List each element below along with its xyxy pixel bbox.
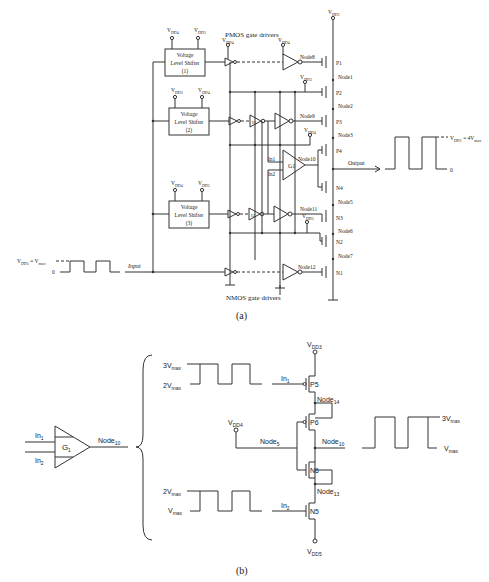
svg-text:VDD4: VDD4 <box>171 180 183 188</box>
caption-a: (a) <box>236 310 247 322</box>
svg-text:Node6: Node6 <box>338 228 353 234</box>
svg-text:Node10: Node10 <box>298 156 316 162</box>
svg-text:Vmax: Vmax <box>444 445 459 454</box>
svg-text:Level Shifter: Level Shifter <box>175 119 204 125</box>
svg-text:Voltage: Voltage <box>177 52 194 58</box>
svg-text:In1: In1 <box>281 375 290 384</box>
svg-text:Level Shifter: Level Shifter <box>171 60 200 66</box>
svg-text:In2: In2 <box>281 502 290 511</box>
svg-text:VDD3: VDD3 <box>300 74 312 82</box>
in1-waveform: 3Vmax 2Vmax In1 <box>163 362 303 391</box>
svg-text:Node9: Node9 <box>300 113 315 119</box>
svg-text:In1: In1 <box>35 432 44 441</box>
svg-text:In2: In2 <box>35 457 44 466</box>
svg-text:P1: P1 <box>336 60 342 66</box>
svg-text:Voltage: Voltage <box>181 111 198 117</box>
svg-text:N4: N4 <box>336 185 343 191</box>
part-a-schematic: PMOS gate drivers NMOS gate drivers (a) … <box>17 9 481 322</box>
in2-waveform: 2Vmax Vmax In2 <box>163 488 303 516</box>
output-waveform-b: 3Vmax Vmax <box>362 415 461 454</box>
svg-text:Node13: Node13 <box>317 488 340 497</box>
svg-text:VDD3: VDD3 <box>171 87 183 95</box>
svg-text:VDD5 = Vmax: VDD5 = Vmax <box>17 258 45 266</box>
svg-text:Node5: Node5 <box>260 438 280 447</box>
level-shifter-2: Voltage Level Shifter (2) VDD3 VDD4 <box>169 87 210 135</box>
svg-text:0: 0 <box>450 167 453 173</box>
svg-text:VDD1: VDD1 <box>328 9 340 17</box>
part-b-schematic: G 1 In1 In2 Node10 3Vmax 2Vmax In1 2Vmax… <box>25 341 461 577</box>
svg-text:I1: I1 <box>252 120 257 125</box>
transistor-stack-a: VDD1 P1 P2 P3 P4 N4 N3 N2 N1 Node1 <box>318 9 380 300</box>
svg-text:(2): (2) <box>186 127 193 134</box>
svg-text:P4: P4 <box>336 148 342 154</box>
svg-text:VDD3: VDD3 <box>307 341 322 350</box>
svg-text:VDD4: VDD4 <box>198 87 210 95</box>
svg-text:G1: G1 <box>288 163 295 169</box>
svg-text:Voltage: Voltage <box>181 204 198 210</box>
svg-text:N5: N5 <box>310 508 319 515</box>
svg-text:N1: N1 <box>336 270 343 276</box>
svg-text:Output: Output <box>348 160 365 166</box>
svg-text:0: 0 <box>52 269 55 275</box>
svg-text:Node10: Node10 <box>322 438 345 447</box>
input-waveform: VDD5 = Vmax 0 <box>17 258 120 275</box>
svg-text:Node12: Node12 <box>298 264 316 270</box>
svg-text:Node11: Node11 <box>300 206 317 212</box>
svg-text:In2: In2 <box>268 171 276 177</box>
svg-text:2Vmax: 2Vmax <box>163 488 182 497</box>
level-shifter-1: Voltage Level Shifter (1) VDD4 VDD3 <box>165 27 206 76</box>
svg-text:N2: N2 <box>336 239 343 245</box>
svg-text:Node2: Node2 <box>338 103 353 109</box>
svg-text:VDD5: VDD5 <box>307 548 322 557</box>
caption-b: (b) <box>236 565 248 577</box>
svg-text:VDD4: VDD4 <box>167 27 179 35</box>
svg-text:Node3: Node3 <box>338 132 353 138</box>
svg-text:Vmax: Vmax <box>168 507 183 516</box>
svg-text:Node10: Node10 <box>98 437 121 446</box>
nmos-header: NMOS gate drivers <box>226 294 281 302</box>
circuit-figure: PMOS gate drivers NMOS gate drivers (a) … <box>0 0 489 582</box>
g1-gate-b: G 1 In1 In2 Node10 <box>25 426 128 468</box>
svg-text:P2: P2 <box>336 90 342 96</box>
brace <box>136 355 152 540</box>
pmos-header: PMOS gate drivers <box>225 31 279 39</box>
svg-text:Node1: Node1 <box>338 74 353 80</box>
svg-text:2Vmax: 2Vmax <box>163 382 182 391</box>
svg-text:VDD1 = 4Vmax: VDD1 = 4Vmax <box>450 135 481 143</box>
input-label: Input <box>127 263 141 269</box>
svg-text:VDD4: VDD4 <box>278 37 290 45</box>
svg-text:Level Shifter: Level Shifter <box>175 212 204 218</box>
svg-text:N3: N3 <box>336 215 343 221</box>
svg-text:3Vmax: 3Vmax <box>442 415 461 424</box>
svg-text:VDD4: VDD4 <box>228 419 243 428</box>
svg-text:P6: P6 <box>310 419 319 426</box>
svg-text:VDD3: VDD3 <box>194 27 206 35</box>
svg-text:P3: P3 <box>336 119 342 125</box>
svg-text:P5: P5 <box>310 381 319 388</box>
svg-text:VDD4: VDD4 <box>304 127 316 135</box>
svg-text:Node7: Node7 <box>338 253 353 259</box>
svg-text:(3): (3) <box>186 220 193 227</box>
svg-text:Node14: Node14 <box>317 396 340 405</box>
output-waveform: VDD1 = 4Vmax 0 <box>385 135 481 173</box>
svg-text:Node8: Node8 <box>300 54 315 60</box>
transistor-stack-b: VDD3 P5 Node14 P6 Node10 <box>228 341 345 557</box>
level-shifter-3: Voltage Level Shifter (3) VDD4 VDD5 <box>169 180 210 228</box>
svg-text:1: 1 <box>68 447 71 453</box>
svg-text:Node5: Node5 <box>338 199 353 205</box>
svg-text:In1: In1 <box>268 156 276 162</box>
svg-text:(1): (1) <box>182 68 189 75</box>
svg-text:VDD5: VDD5 <box>198 180 210 188</box>
svg-text:3Vmax: 3Vmax <box>163 362 182 371</box>
